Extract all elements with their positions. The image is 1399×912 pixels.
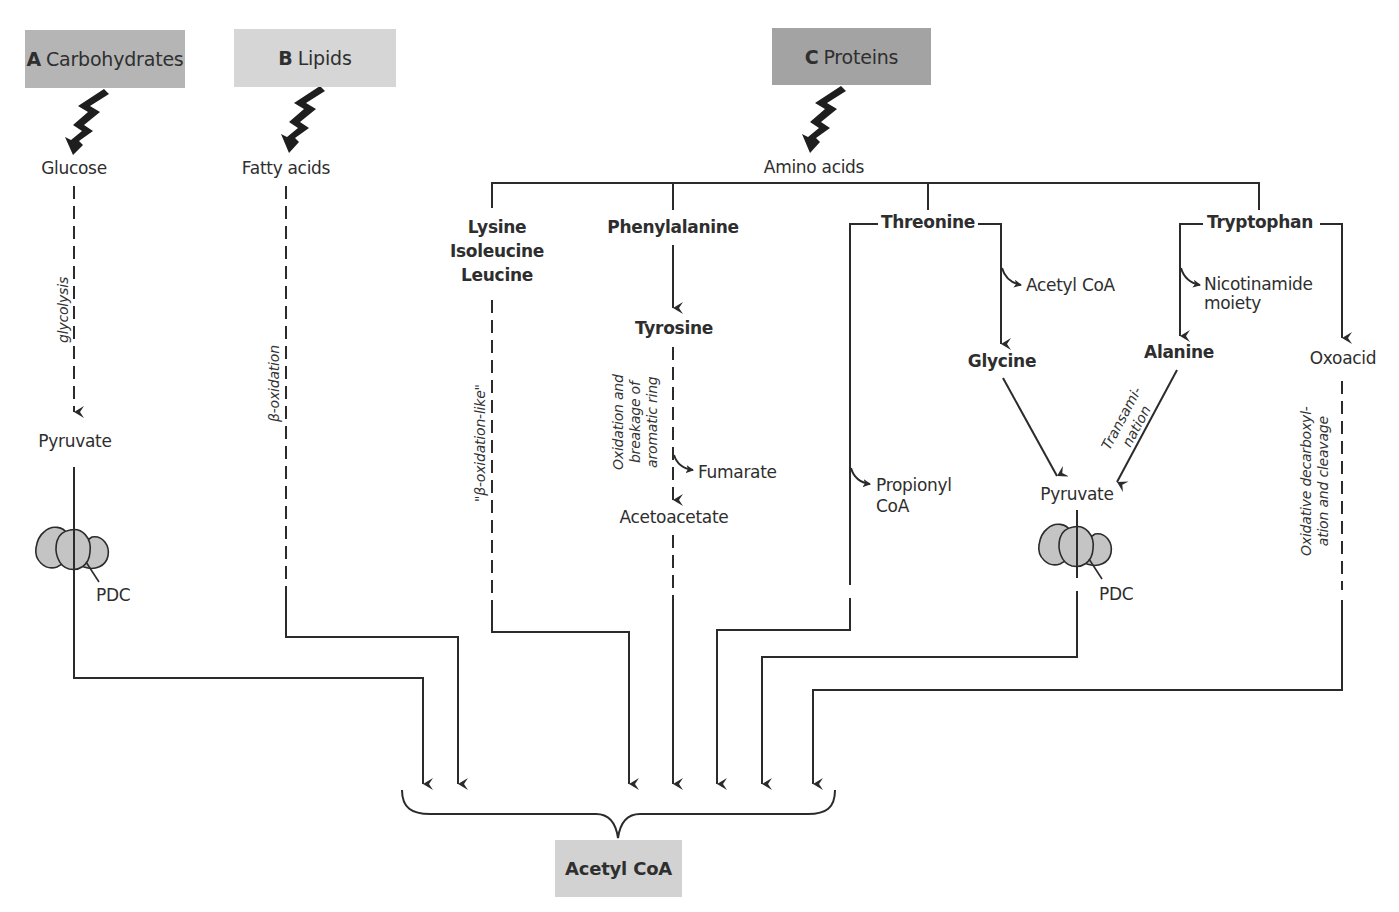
phenylalanine-label: Phenylalanine xyxy=(607,217,739,237)
nicotinamide-moiety-label: Nicotinamide moiety xyxy=(1204,275,1313,313)
isoleucine-label: Isoleucine xyxy=(450,239,544,263)
lipids-label: Lipids xyxy=(298,47,352,69)
acetoacetate-label: Acetoacetate xyxy=(619,507,728,527)
glycine-label: Glycine xyxy=(968,351,1036,371)
oxidative-line-1: Oxidative decarboxyl- xyxy=(1298,406,1315,556)
propionyl-line-2: CoA xyxy=(876,496,952,517)
pyruvate-right-label: Pyruvate xyxy=(1040,484,1113,504)
nicotinamide-line-1: Nicotinamide xyxy=(1204,275,1313,294)
acetyl-coa-box: Acetyl CoA xyxy=(555,840,682,897)
nicotinamide-line-2: moiety xyxy=(1204,294,1313,313)
lipids-box: B Lipids xyxy=(234,29,396,87)
threonine-label: Threonine xyxy=(881,212,975,232)
glycolysis-label: glycolysis xyxy=(55,277,72,343)
carbohydrate-pathway-lines xyxy=(74,186,423,784)
lysine-group-lines xyxy=(492,300,629,784)
pdc-complex-icon xyxy=(36,527,109,582)
beta-oxidation-label: β-oxidation xyxy=(266,345,283,422)
glucose-label: Glucose xyxy=(41,158,107,178)
leucine-label: Leucine xyxy=(450,263,544,287)
acetyl-coa-pathway-diagram: A Carbohydrates B Lipids C Proteins Acet… xyxy=(0,0,1399,912)
pdc-right-label: PDC xyxy=(1099,584,1133,604)
threonine-acetyl-coa-label: Acetyl CoA xyxy=(1026,275,1115,295)
fatty-acids-label: Fatty acids xyxy=(242,158,330,178)
tryptophan-label: Tryptophan xyxy=(1207,212,1313,232)
acetyl-coa-label: Acetyl CoA xyxy=(565,858,672,879)
aromatic-ring-breakage-label: Oxidation and breakage of aromatic ring xyxy=(610,374,661,470)
propionyl-line-1: Propionyl xyxy=(876,475,952,496)
lysine-group-label: Lysine Isoleucine Leucine xyxy=(450,215,544,287)
hydrolysis-arrows xyxy=(65,86,846,155)
amino-acids-label: Amino acids xyxy=(764,157,864,177)
oxidative-line-2: ation and cleavage xyxy=(1315,406,1332,556)
amino-acid-bus xyxy=(492,183,1259,210)
proteins-box: C Proteins xyxy=(772,28,931,85)
process-line-1: Oxidation and xyxy=(610,374,627,470)
proteins-letter: C xyxy=(805,46,819,68)
lipid-pathway-lines xyxy=(286,186,458,784)
oxidative-decarboxylation-label: Oxidative decarboxyl- ation and cleavage xyxy=(1298,406,1332,556)
proteins-label: Proteins xyxy=(823,46,898,68)
convergence-brace xyxy=(402,790,835,838)
pathway-connectors xyxy=(0,0,1399,912)
lipids-letter: B xyxy=(278,47,292,69)
process-line-2: breakage of xyxy=(627,374,644,470)
lightning-arrow-icon xyxy=(65,89,109,155)
oxoacid-label: Oxoacid xyxy=(1310,348,1377,368)
carbohydrates-box: A Carbohydrates xyxy=(25,30,185,88)
fumarate-label: Fumarate xyxy=(698,462,777,482)
carbohydrates-letter: A xyxy=(26,48,41,70)
beta-oxidation-like-label: "β-oxidation-like" xyxy=(472,384,489,502)
pdc-left-label: PDC xyxy=(96,585,130,605)
lysine-label: Lysine xyxy=(450,215,544,239)
pdc-complex-icon xyxy=(1039,524,1112,579)
carbohydrates-label: Carbohydrates xyxy=(46,48,184,70)
tyrosine-label: Tyrosine xyxy=(635,318,713,338)
alanine-label: Alanine xyxy=(1144,342,1214,362)
lightning-arrow-icon xyxy=(281,86,325,153)
pyruvate-left-label: Pyruvate xyxy=(38,431,111,451)
process-line-3: aromatic ring xyxy=(644,374,661,470)
lightning-arrow-icon xyxy=(802,86,846,153)
propionyl-coa-label: Propionyl CoA xyxy=(876,475,952,517)
right-pyruvate-lines xyxy=(762,510,1077,784)
